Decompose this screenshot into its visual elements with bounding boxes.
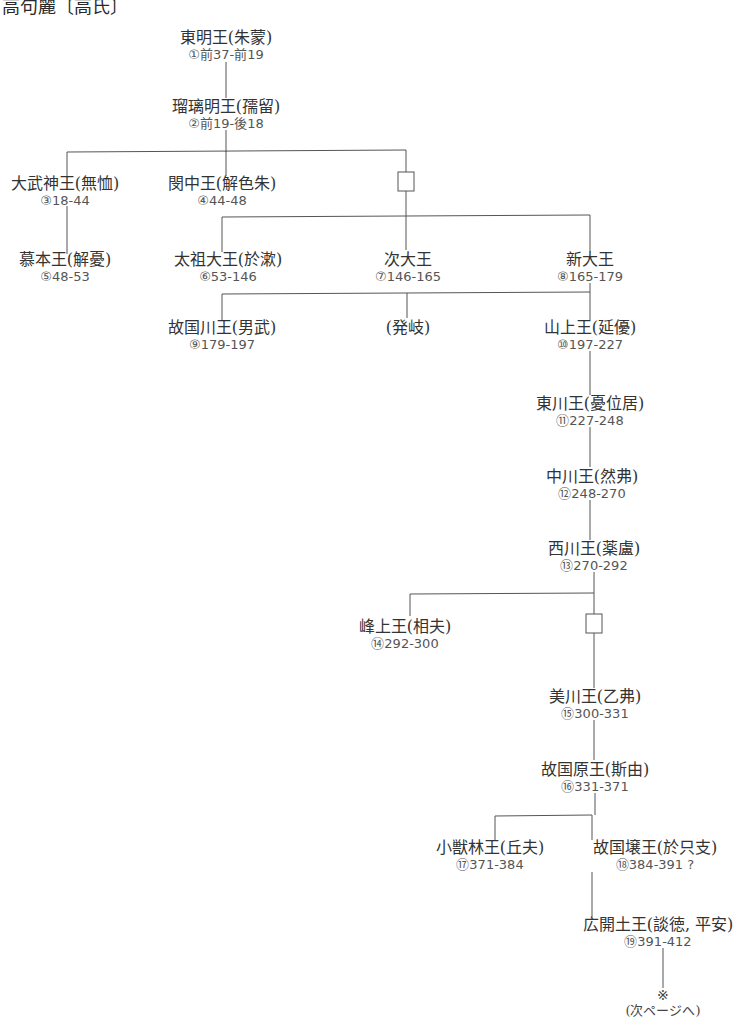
king-node-jungcheon: 中川王(然弗) ⑫248-270 [546, 469, 638, 500]
king-node-daemusin: 大武神王(無恤) ③18-44 [11, 176, 119, 207]
king-node-dongcheon: 東川王(憂位居) ⑪227-248 [536, 396, 644, 427]
king-reign: ⑧165-179 [557, 270, 623, 283]
king-reign: ⑨179-197 [168, 338, 276, 351]
king-name: 中川王(然弗) [546, 469, 638, 485]
king-name: 美川王(乙弗) [549, 689, 641, 705]
king-node-mobon: 慕本王(解憂) ⑤48-53 [19, 252, 111, 283]
person-name: (発岐) [386, 320, 430, 336]
king-reign: ⑮300-331 [549, 707, 641, 720]
king-name: 山上王(延優) [544, 320, 636, 336]
reference-mark-icon: ※ [625, 988, 700, 1002]
king-name: 慕本王(解憂) [19, 252, 111, 268]
king-reign: ⑭292-300 [359, 637, 451, 650]
king-node-gogukwon: 故国原王(斯由) ⑯331-371 [541, 762, 649, 793]
king-name: 太祖大王(於漱) [174, 252, 282, 268]
king-name: 次大王 [375, 252, 441, 268]
king-node-micheon: 美川王(乙弗) ⑮300-331 [549, 689, 641, 720]
king-reign: ⑩197-227 [544, 338, 636, 351]
king-node-seocheon: 西川王(薬盧) ⑬270-292 [548, 541, 640, 572]
king-reign: ④44-48 [168, 194, 276, 207]
king-name: 東川王(憂位居) [536, 396, 644, 412]
king-node-gwanggaeto: 広開土王(談徳, 平安) ⑲391-412 [583, 917, 734, 948]
king-name: 広開土王(談徳, 平安) [583, 917, 734, 933]
king-node-sosurim: 小獣林王(丘夫) ⑰371-384 [436, 840, 544, 871]
king-name: 西川王(薬盧) [548, 541, 640, 557]
king-node-gogukcheon: 故国川王(男武) ⑨179-197 [168, 320, 276, 351]
king-node-bongsang: 峰上王(相夫) ⑭292-300 [359, 619, 451, 650]
king-node-taejo: 太祖大王(於漱) ⑥53-146 [174, 252, 282, 283]
king-reign: ⑪227-248 [536, 414, 644, 427]
king-reign: ⑯331-371 [541, 780, 649, 793]
king-name: 故国原王(斯由) [541, 762, 649, 778]
king-name: 小獣林王(丘夫) [436, 840, 544, 856]
king-reign: ③18-44 [11, 194, 119, 207]
king-name: 峰上王(相夫) [359, 619, 451, 635]
king-name: 故国壌王(於只支) [593, 840, 717, 856]
king-name: 閔中王(解色朱) [168, 176, 276, 192]
king-node-dongmyeong: 東明王(朱蒙) ①前37-前19 [180, 30, 272, 61]
king-reign: ⑤48-53 [19, 270, 111, 283]
king-reign: ②前19-後18 [172, 117, 280, 130]
king-reign: ⑥53-146 [174, 270, 282, 283]
continuation-marker: ※ (次ページへ) [625, 988, 700, 1017]
king-node-yuri: 瑠璃明王(孺留) ②前19-後18 [172, 99, 280, 130]
king-node-sindae: 新大王 ⑧165-179 [557, 252, 623, 283]
king-reign: ⑲391-412 [583, 935, 734, 948]
king-node-chadae: 次大王 ⑦146-165 [375, 252, 441, 283]
person-node-balgi: (発岐) [386, 320, 430, 336]
king-reign: ⑦146-165 [375, 270, 441, 283]
king-reign: ⑬270-292 [548, 559, 640, 572]
king-name: 故国川王(男武) [168, 320, 276, 336]
king-node-sansang: 山上王(延優) ⑩197-227 [544, 320, 636, 351]
king-name: 東明王(朱蒙) [180, 30, 272, 46]
continued-next-page-label: (次ページへ) [625, 1004, 700, 1017]
king-node-gogugyang: 故国壌王(於只支) ⑱384-391 ? [593, 840, 717, 871]
king-reign: ①前37-前19 [180, 48, 272, 61]
king-name: 瑠璃明王(孺留) [172, 99, 280, 115]
king-reign: ⑱384-391 ? [593, 858, 717, 871]
king-node-minjung: 閔中王(解色朱) ④44-48 [168, 176, 276, 207]
king-name: 新大王 [557, 252, 623, 268]
king-reign: ⑰371-384 [436, 858, 544, 871]
king-reign: ⑫248-270 [546, 487, 638, 500]
king-name: 大武神王(無恤) [11, 176, 119, 192]
